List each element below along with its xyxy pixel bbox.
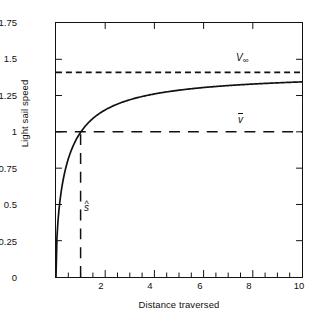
- y-tick-label: 1: [12, 127, 17, 137]
- s-hat-label: ^s: [84, 203, 89, 213]
- y-tick-label: 0: [12, 273, 17, 283]
- y-axis-ticks-right: [296, 59, 302, 240]
- x-axis-ticks-top: [105, 23, 253, 29]
- x-tick-label: 6: [189, 281, 211, 291]
- x-tick-label: 8: [238, 281, 260, 291]
- y-tick-label: 1.75: [0, 18, 17, 28]
- y-tick-label: 0.5: [4, 200, 17, 210]
- v-infinity-label: V∞: [236, 53, 248, 65]
- y-tick-label: 0.25: [0, 237, 17, 247]
- light-sail-speed-curve: [56, 82, 302, 277]
- x-axis-title: Distance traversed: [55, 299, 303, 310]
- v-bar-label: v: [238, 115, 243, 125]
- x-tick-label: 2: [90, 281, 112, 291]
- plot-svg: [56, 23, 302, 277]
- y-tick-label: 0.75: [0, 164, 17, 174]
- y-tick-label: 1.5: [4, 54, 17, 64]
- y-axis-title: Light sail speed: [19, 44, 30, 184]
- chart-figure: 1.75 1.5 1.25 1 0.75 0.5 0.25 0 2 4 6 8 …: [0, 0, 324, 324]
- x-axis-ticks: [68, 270, 289, 277]
- y-tick-label: 1.25: [0, 91, 17, 101]
- plot-area: V∞ v ^s: [55, 22, 303, 278]
- x-tick-label: 10: [288, 281, 310, 291]
- x-tick-label: 4: [139, 281, 161, 291]
